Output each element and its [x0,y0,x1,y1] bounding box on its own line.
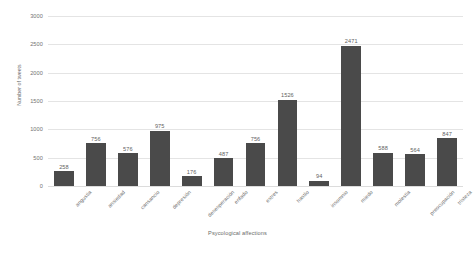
bar-group[interactable]: 94 [309,16,329,186]
bar[interactable] [405,154,425,186]
bar-group[interactable]: 487 [214,16,234,186]
bar-group[interactable]: 588 [373,16,393,186]
y-axis-title: Number of tweets [16,35,22,135]
plot-area: 050010001500200025003000 258756576975176… [48,16,463,186]
bar-group[interactable]: 847 [437,16,457,186]
bar-value-label: 1526 [281,92,294,98]
bar-value-label: 756 [251,136,261,142]
x-axis-tick-label: miedo [360,189,375,204]
x-axis-tick-label: preocupación [429,189,456,216]
bar-value-label: 756 [91,136,101,142]
x-axis-tick-label: tristeza [456,189,473,206]
y-axis-tick-label: 3000 [30,13,43,19]
bar-value-label: 176 [187,169,197,175]
bar[interactable] [118,153,138,186]
bar-group[interactable]: 258 [54,16,74,186]
y-axis-tick-label: 0 [40,183,43,189]
bar-group[interactable]: 564 [405,16,425,186]
x-axis-tick-label: insomnio [330,189,350,209]
y-axis-tick-label: 500 [33,155,43,161]
bar[interactable] [278,100,298,186]
y-axis-tick-label: 2500 [30,41,43,47]
bar-value-label: 564 [410,147,420,153]
x-axis-tick-label: desesperación [206,189,235,218]
bar-group[interactable]: 1526 [278,16,298,186]
x-axis-tick-label: hastío [296,189,311,204]
bar-value-label: 576 [123,146,133,152]
bar-value-label: 975 [155,123,165,129]
bar-group[interactable]: 2471 [341,16,361,186]
bar-chart-figure: Number of tweets 05001000150020002500300… [0,0,475,256]
x-axis-title: Psycological affections [0,230,475,236]
x-axis-tick-label: enfado [232,189,248,205]
x-axis-tick-label: ansiedad [106,189,126,209]
bar-group[interactable]: 756 [246,16,266,186]
bar[interactable] [86,143,106,186]
bar[interactable] [341,46,361,186]
bar-value-label: 847 [442,131,452,137]
bar-value-label: 2471 [345,38,358,44]
bar[interactable] [373,153,393,186]
x-axis-tick-labels: angustiaansiedadcansanciodepresióndesesp… [48,186,463,234]
y-axis-tick-label: 1500 [30,98,43,104]
x-axis-tick-label: cansancio [139,189,160,210]
bar[interactable] [246,143,266,186]
bars-layer: 2587565769751764877561526942471588564847 [48,16,463,186]
x-axis-tick-label: depresión [171,189,192,210]
bar[interactable] [214,158,234,186]
bar-group[interactable]: 975 [150,16,170,186]
bar[interactable] [54,171,74,186]
bar-value-label: 258 [59,164,69,170]
y-axis-tick-label: 2000 [30,70,43,76]
y-axis-tick-label: 1000 [30,126,43,132]
bar[interactable] [182,176,202,186]
bar-value-label: 487 [219,151,229,157]
x-axis-tick-label: angustia [74,189,93,208]
bar-group[interactable]: 176 [182,16,202,186]
bar-group[interactable]: 756 [86,16,106,186]
bar-value-label: 94 [316,173,322,179]
x-axis-tick-label: molestia [393,189,411,207]
bar-group[interactable]: 576 [118,16,138,186]
bar-value-label: 588 [378,145,388,151]
x-axis-tick-label: estres [264,189,279,204]
bar[interactable] [437,138,457,186]
bar[interactable] [150,131,170,186]
